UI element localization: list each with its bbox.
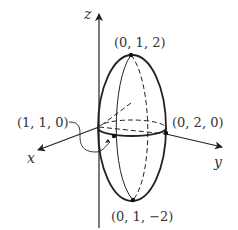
equator-back [98, 120, 166, 128]
point-bottom [131, 198, 135, 202]
label-top-point: (0, 1, 2) [114, 35, 166, 50]
x-axis-label: x [27, 150, 35, 166]
point-front [112, 134, 116, 138]
point-top [129, 53, 133, 57]
label-right-point: (0, 2, 0) [172, 115, 224, 130]
z-axis-label: z [83, 6, 92, 22]
x-axis [38, 127, 99, 150]
meridian-front [116, 55, 133, 200]
label-bottom-point: (0, 1, −2) [111, 209, 173, 224]
leader-line [69, 122, 110, 152]
x-axis-hidden [99, 103, 131, 127]
equator-front [98, 128, 166, 136]
point-right [164, 131, 168, 135]
y-axis-label: y [213, 154, 223, 170]
meridian-back [131, 55, 148, 200]
label-front-point: (1, 1, 0) [17, 115, 69, 130]
ellipsoid-diagram: z x y (0, 1, 2) (0, 1, −2) (1, 1, 0) (0,… [0, 0, 238, 230]
y-axis [166, 134, 222, 147]
